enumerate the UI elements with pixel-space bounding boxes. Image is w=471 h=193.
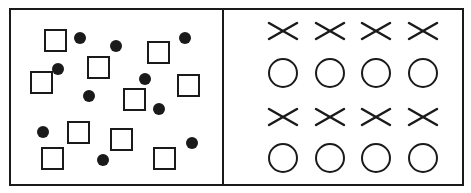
dot-icon (52, 63, 64, 75)
dot-icon (74, 32, 86, 44)
square-icon (42, 148, 63, 169)
circle-icon (316, 144, 344, 172)
square-icon (68, 122, 89, 143)
right-panel-ordered-shapes (269, 23, 437, 172)
cross-icon (409, 23, 437, 39)
circle-icon (409, 144, 437, 172)
circle-icon (409, 59, 437, 87)
cross-icon (316, 23, 344, 39)
dot-icon (186, 137, 198, 149)
circle-icon (316, 59, 344, 87)
cross-icon (362, 23, 390, 39)
figure-canvas (0, 0, 471, 193)
circle-icon (362, 144, 390, 172)
dot-icon (97, 154, 109, 166)
cross-icon (362, 109, 390, 125)
dot-icon (83, 90, 95, 102)
circle-icon (269, 144, 297, 172)
square-icon (31, 72, 52, 93)
circle-icon (362, 59, 390, 87)
square-icon (124, 89, 145, 110)
square-icon (178, 75, 199, 96)
square-icon (88, 57, 109, 78)
cross-icon (269, 23, 297, 39)
dot-icon (139, 73, 151, 85)
cross-icon (316, 109, 344, 125)
dot-icon (110, 40, 122, 52)
circle-icon (269, 59, 297, 87)
cross-icon (409, 109, 437, 125)
cross-icon (269, 109, 297, 125)
square-icon (45, 30, 66, 51)
dot-icon (37, 126, 49, 138)
dot-icon (179, 32, 191, 44)
square-icon (148, 42, 169, 63)
square-icon (154, 148, 175, 169)
square-icon (111, 129, 132, 150)
dot-icon (153, 103, 165, 115)
shape-grouping-figure (0, 0, 471, 193)
left-panel-scattered-shapes (31, 30, 199, 169)
